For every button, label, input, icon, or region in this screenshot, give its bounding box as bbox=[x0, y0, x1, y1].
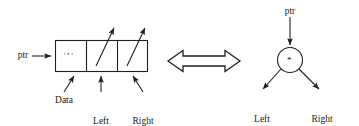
right-pointer-label: ptr bbox=[281, 6, 299, 17]
left-pointer-label: ptr bbox=[14, 50, 32, 61]
right-child-caption-line1: Right bbox=[124, 116, 162, 126]
data-caption-arrow bbox=[64, 76, 74, 92]
data-caption: Data bbox=[44, 95, 84, 106]
left-child-caption-line1: Left bbox=[82, 116, 120, 126]
left-child-caption: Left child bbox=[82, 95, 120, 126]
right-caption-arrow bbox=[133, 76, 143, 92]
tree-right-child-label: Right child bbox=[303, 93, 341, 126]
tree-right-edge bbox=[299, 69, 319, 89]
tree-left-child-line1: Left bbox=[243, 114, 281, 125]
tree-right-child-line1: Right bbox=[303, 114, 341, 125]
tree-node-value: * bbox=[287, 55, 292, 65]
tree-left-edge bbox=[263, 69, 281, 89]
tree-node-diagram: ptr '*' Data Left child Right child ptr … bbox=[0, 0, 359, 126]
right-child-caption: Right child bbox=[124, 95, 162, 126]
tree-left-child-label: Left child bbox=[243, 93, 281, 126]
equivalence-arrow-icon bbox=[168, 51, 240, 72]
data-cell-value: '*' bbox=[63, 52, 74, 59]
